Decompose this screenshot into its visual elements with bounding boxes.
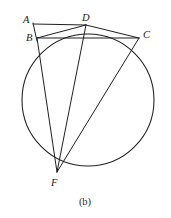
figure-caption: (b) bbox=[79, 196, 92, 208]
vertex-label-D: D bbox=[81, 12, 90, 23]
segment-DF bbox=[57, 25, 86, 172]
vertex-label-C: C bbox=[143, 29, 151, 40]
segment-BD bbox=[37, 25, 86, 38]
segment-CF bbox=[57, 38, 139, 172]
main-circle bbox=[22, 34, 154, 166]
figure-container: A B D C F (b) bbox=[0, 0, 171, 218]
vertex-label-B: B bbox=[26, 32, 33, 43]
geometry-diagram: A B D C F (b) bbox=[0, 0, 171, 218]
segment-AD bbox=[33, 24, 86, 25]
segment-AB bbox=[33, 23, 37, 41]
vertex-label-F: F bbox=[50, 177, 58, 188]
segment-DC bbox=[86, 25, 139, 38]
vertex-label-A: A bbox=[22, 14, 30, 25]
